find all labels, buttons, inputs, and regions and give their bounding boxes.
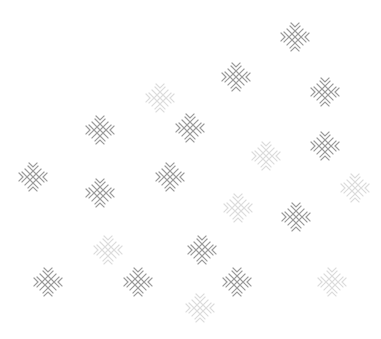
snowflake-icon — [249, 139, 283, 173]
snowflake-icon — [308, 75, 342, 109]
snowflake-icon — [279, 200, 313, 234]
snowflake-icon — [308, 129, 342, 163]
snowflake-icon — [185, 233, 219, 267]
snowflake-icon — [83, 113, 117, 147]
snowflake-icon — [183, 291, 217, 325]
snowflake-icon — [83, 176, 117, 210]
snowflake-icon — [121, 265, 155, 299]
snowflake-icon — [173, 111, 207, 145]
snowflake-icon — [315, 265, 349, 299]
snowflake-icon — [91, 233, 125, 267]
snowflake-icon — [153, 160, 187, 194]
snowflake-icon — [278, 20, 312, 54]
snowflake-icon — [338, 171, 372, 205]
snowflake-icon — [31, 265, 65, 299]
snowflake-icon — [221, 191, 255, 225]
snowflake-icon — [219, 60, 253, 94]
snowflake-icon — [220, 265, 254, 299]
snowflake-icon — [143, 81, 177, 115]
snowflake-icon — [16, 160, 50, 194]
